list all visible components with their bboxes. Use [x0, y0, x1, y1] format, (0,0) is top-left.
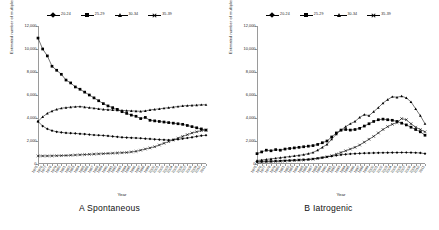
- y-tick-label: 4,000: [27, 116, 37, 120]
- data-point: [344, 149, 347, 152]
- series-line: [38, 105, 206, 122]
- data-point: [135, 137, 138, 140]
- data-point: [279, 149, 282, 152]
- y-tick-label: 10,000: [244, 47, 256, 51]
- data-point: [405, 124, 408, 127]
- y-tick-label: 2,000: [246, 139, 256, 143]
- x-tick-mark: [206, 164, 207, 166]
- data-point: [349, 153, 352, 156]
- data-point: [65, 79, 68, 82]
- data-point: [153, 120, 156, 123]
- data-point: [181, 135, 184, 138]
- data-point: [46, 55, 49, 58]
- data-point: [410, 151, 413, 154]
- data-point: [410, 122, 413, 125]
- data-point: [424, 152, 427, 155]
- panel-a-caption: A Spontaneous: [0, 203, 219, 213]
- data-point: [83, 91, 86, 94]
- data-point: [153, 138, 156, 141]
- data-point: [386, 98, 389, 100]
- data-point: [139, 137, 142, 140]
- data-point: [65, 132, 68, 135]
- axes-b: 02,0004,0006,0008,00010,00012,0001975197…: [257, 26, 425, 164]
- data-point: [144, 137, 147, 140]
- data-point: [414, 151, 417, 154]
- data-point: [83, 133, 86, 136]
- data-point: [316, 149, 319, 151]
- data-point: [163, 142, 166, 145]
- legend-item-30-34[interactable]: 30-34: [115, 13, 139, 17]
- data-point: [372, 120, 375, 123]
- data-point: [195, 135, 198, 138]
- data-point: [354, 152, 357, 155]
- data-point: [51, 129, 54, 132]
- legend-item-30-34[interactable]: 30-34: [334, 13, 358, 17]
- data-point: [298, 146, 301, 149]
- data-point: [260, 151, 263, 154]
- legend-item-20-24[interactable]: 20-24: [47, 13, 71, 17]
- data-point: [377, 118, 380, 121]
- y-tick-label: 6,000: [27, 93, 37, 97]
- data-point: [163, 139, 166, 142]
- legend-item-35-39[interactable]: 35-39: [148, 13, 172, 17]
- panel-b-caption: B Iatrogenic: [219, 203, 438, 213]
- data-point: [97, 134, 100, 137]
- data-point: [424, 130, 427, 133]
- data-point: [102, 134, 105, 137]
- data-point: [116, 136, 119, 139]
- legend-item-20-24[interactable]: 20-24: [266, 13, 290, 17]
- diamond-icon: [47, 13, 60, 17]
- square-icon: [300, 13, 313, 17]
- data-point: [111, 106, 114, 109]
- data-point: [419, 128, 422, 131]
- data-point: [382, 128, 385, 131]
- data-point: [69, 132, 72, 135]
- data-point: [372, 135, 375, 138]
- data-point: [279, 159, 282, 162]
- data-point: [265, 149, 268, 152]
- plot-area-b: Estimated number of multiples 02,0004,00…: [219, 20, 438, 168]
- data-point: [368, 122, 371, 125]
- legend-item-25-29[interactable]: 25-29: [81, 13, 105, 17]
- data-point: [181, 123, 184, 126]
- series-line: [257, 119, 425, 153]
- data-point: [158, 138, 161, 141]
- data-point: [130, 114, 133, 117]
- series-25-29: [256, 118, 427, 155]
- data-point: [149, 138, 152, 141]
- data-point: [396, 151, 399, 154]
- data-point: [354, 146, 357, 149]
- data-point: [358, 152, 361, 155]
- data-point: [135, 115, 138, 118]
- data-point: [368, 152, 371, 155]
- data-point: [326, 140, 329, 143]
- data-point: [391, 119, 394, 122]
- data-point: [186, 124, 189, 127]
- data-point: [149, 119, 152, 122]
- cross-icon: [367, 13, 380, 17]
- legend-item-25-29[interactable]: 25-29: [300, 13, 324, 17]
- data-point: [298, 159, 301, 162]
- x-axis-title-a: Year: [38, 192, 206, 197]
- triangle-icon: [334, 13, 347, 17]
- diamond-icon: [266, 13, 279, 17]
- data-point: [69, 82, 72, 85]
- data-point: [79, 88, 82, 91]
- data-point: [400, 122, 403, 125]
- data-point: [186, 133, 189, 136]
- series-25-29: [37, 37, 208, 132]
- data-point: [274, 160, 277, 163]
- data-point: [256, 152, 259, 155]
- data-point: [363, 125, 366, 128]
- data-point: [88, 94, 91, 97]
- data-point: [391, 151, 394, 154]
- data-point: [88, 133, 91, 136]
- data-point: [358, 144, 361, 147]
- data-point: [349, 129, 352, 132]
- legend-label: 25-29: [314, 13, 324, 17]
- data-point: [60, 131, 63, 134]
- data-point: [363, 141, 366, 144]
- data-point: [400, 151, 403, 154]
- legend-item-35-39[interactable]: 35-39: [367, 13, 391, 17]
- data-point: [37, 37, 40, 40]
